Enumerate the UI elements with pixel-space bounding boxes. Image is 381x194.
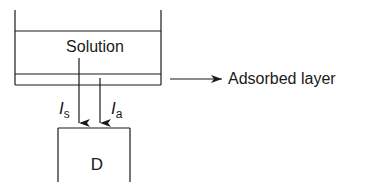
solution-label: Solution: [66, 38, 124, 55]
beam-subscript-solution: s: [64, 107, 70, 121]
adsorption-diagram: Solution Adsorbed layer Is Ia D: [0, 0, 381, 194]
detector-label: D: [91, 155, 103, 174]
beam-label-solution: Is: [59, 99, 70, 121]
adsorbed-layer-label: Adsorbed layer: [228, 70, 336, 87]
beam-label-adsorbed: Ia: [111, 99, 123, 121]
beam-subscript-adsorbed: a: [116, 107, 123, 121]
